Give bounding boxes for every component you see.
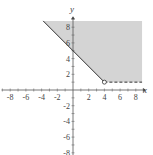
points xyxy=(102,80,106,84)
x-tick-label: -2 xyxy=(54,93,61,102)
x-tick-label: -8 xyxy=(7,93,14,102)
x-tick-label: 4 xyxy=(102,93,106,102)
y-tick-label: -2 xyxy=(63,102,70,111)
shaded-region xyxy=(43,21,142,82)
y-tick-label: 6 xyxy=(66,39,70,48)
y-axis-arrow-icon xyxy=(71,16,75,19)
x-tick-label: -6 xyxy=(23,93,30,102)
y-tick-label: -4 xyxy=(63,117,70,126)
y-tick-label: 4 xyxy=(66,55,70,64)
y-tick-label: 8 xyxy=(66,23,70,32)
y-tick-label: -6 xyxy=(63,133,70,142)
y-tick-label: 2 xyxy=(66,70,70,79)
open-circle-point xyxy=(102,80,106,84)
x-axis-label: x xyxy=(142,85,147,95)
x-tick-label: 2 xyxy=(87,93,91,102)
inequality-graph: -8-6-4-22468-8-6-4-22468 x y xyxy=(0,0,153,155)
y-axis-label: y xyxy=(69,4,74,14)
x-tick-label: 8 xyxy=(134,93,138,102)
shaded-area xyxy=(43,21,142,82)
x-tick-label: -4 xyxy=(38,93,45,102)
y-tick-label: -8 xyxy=(63,149,70,155)
x-tick-label: 6 xyxy=(118,93,122,102)
